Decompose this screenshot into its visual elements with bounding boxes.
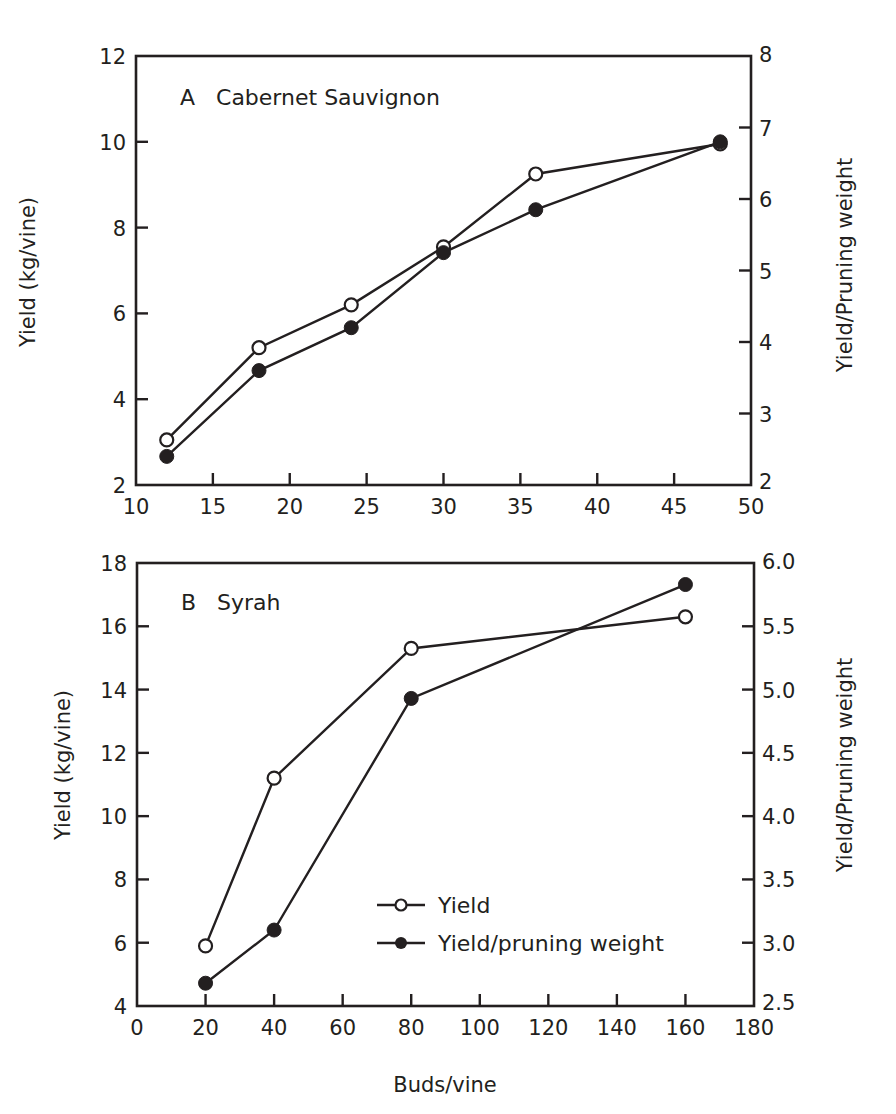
filled-circle-marker-icon bbox=[404, 691, 418, 705]
x-tick-label: 120 bbox=[528, 1016, 568, 1040]
panel-b-ticks: 02040608010012014016018046810121416182.5… bbox=[100, 550, 795, 1040]
x-tick-label: 60 bbox=[329, 1016, 356, 1040]
x-tick-label: 40 bbox=[584, 495, 611, 519]
panel-a-series bbox=[160, 135, 728, 464]
panel-a-cabernet-sauvignon: 101520253035404550246810122345678 A Cabe… bbox=[16, 43, 857, 519]
y-tick-label: 18 bbox=[100, 552, 127, 576]
filled-circle-marker-icon bbox=[160, 449, 174, 463]
y2-tick-label: 4.5 bbox=[762, 742, 795, 766]
open-circle-marker-icon bbox=[405, 642, 418, 655]
panel-b-series bbox=[199, 578, 693, 991]
filled-circle-marker-icon bbox=[678, 578, 692, 592]
x-tick-label: 10 bbox=[123, 495, 150, 519]
open-circle-marker-icon bbox=[345, 298, 358, 311]
panel-a-title: A Cabernet Sauvignon bbox=[180, 85, 440, 110]
y-tick-label: 10 bbox=[99, 131, 126, 155]
y-tick-label: 2 bbox=[113, 474, 126, 498]
filled-circle-marker-icon bbox=[395, 937, 407, 949]
y2-tick-label: 3 bbox=[759, 403, 772, 427]
y2-tick-label: 6 bbox=[759, 188, 772, 212]
y2-tick-label: 4.0 bbox=[762, 805, 795, 829]
x-tick-label: 20 bbox=[276, 495, 303, 519]
x-tick-label: 50 bbox=[738, 495, 765, 519]
figure: 101520253035404550246810122345678 A Cabe… bbox=[0, 0, 896, 1114]
y2-tick-label: 5.0 bbox=[762, 679, 795, 703]
y2-tick-label: 2 bbox=[759, 470, 772, 494]
filled-circle-marker-icon bbox=[344, 321, 358, 335]
open-circle-marker-icon bbox=[679, 610, 692, 623]
panel-b-y2-axis-title: Yield/Pruning weight bbox=[833, 658, 857, 874]
panel-a-plot-frame bbox=[136, 56, 751, 485]
x-tick-label: 25 bbox=[353, 495, 380, 519]
open-circle-marker-icon bbox=[199, 939, 212, 952]
open-circle-marker-icon bbox=[253, 341, 266, 354]
x-tick-label: 20 bbox=[192, 1016, 219, 1040]
y-tick-label: 8 bbox=[114, 868, 127, 892]
y2-tick-label: 8 bbox=[759, 43, 772, 67]
series-line-yield-pruning-weight bbox=[167, 142, 721, 457]
legend-item-yield: Yield bbox=[377, 893, 490, 918]
y-tick-label: 16 bbox=[100, 615, 127, 639]
y2-tick-label: 5 bbox=[759, 260, 772, 284]
y2-tick-label: 4 bbox=[759, 331, 772, 355]
filled-circle-marker-icon bbox=[267, 923, 281, 937]
x-axis-title: Buds/vine bbox=[393, 1073, 497, 1097]
y-tick-label: 6 bbox=[113, 302, 126, 326]
legend-label-yield-pruning-weight: Yield/pruning weight bbox=[437, 931, 664, 956]
open-circle-marker-icon bbox=[529, 167, 542, 180]
y2-tick-label: 3.0 bbox=[762, 932, 795, 956]
y-tick-label: 4 bbox=[113, 388, 126, 412]
filled-circle-marker-icon bbox=[199, 976, 213, 990]
open-circle-marker-icon bbox=[396, 900, 407, 911]
y-tick-label: 12 bbox=[100, 742, 127, 766]
y2-tick-label: 5.5 bbox=[762, 615, 795, 639]
y2-tick-label: 6.0 bbox=[762, 550, 795, 574]
x-tick-label: 45 bbox=[661, 495, 688, 519]
series-line-yield bbox=[167, 144, 721, 440]
open-circle-marker-icon bbox=[268, 772, 281, 785]
filled-circle-marker-icon bbox=[529, 203, 543, 217]
x-tick-label: 30 bbox=[430, 495, 457, 519]
y-tick-label: 12 bbox=[99, 45, 126, 69]
x-tick-label: 35 bbox=[507, 495, 534, 519]
y-tick-label: 14 bbox=[100, 679, 127, 703]
panel-b-y-axis-title: Yield (kg/vine) bbox=[51, 690, 75, 841]
x-tick-label: 160 bbox=[665, 1016, 705, 1040]
x-tick-label: 80 bbox=[398, 1016, 425, 1040]
panel-b-syrah: 02040608010012014016018046810121416182.5… bbox=[51, 550, 857, 1097]
y2-tick-label: 2.5 bbox=[762, 991, 795, 1015]
y2-tick-label: 7 bbox=[759, 117, 772, 141]
panel-a-y-axis-title: Yield (kg/vine) bbox=[16, 197, 40, 348]
y2-tick-label: 3.5 bbox=[762, 868, 795, 892]
y-tick-label: 10 bbox=[100, 805, 127, 829]
y-tick-label: 6 bbox=[114, 932, 127, 956]
legend-item-yield-pruning-weight: Yield/pruning weight bbox=[377, 931, 664, 956]
filled-circle-marker-icon bbox=[252, 364, 266, 378]
y-tick-label: 8 bbox=[113, 217, 126, 241]
x-tick-label: 0 bbox=[130, 1016, 143, 1040]
filled-circle-marker-icon bbox=[437, 246, 451, 260]
y-tick-label: 4 bbox=[114, 995, 127, 1019]
legend-label-yield: Yield bbox=[437, 893, 490, 918]
x-tick-label: 180 bbox=[734, 1016, 774, 1040]
panel-b-title: B Syrah bbox=[181, 590, 281, 615]
legend: Yield Yield/pruning weight bbox=[377, 893, 664, 956]
x-tick-label: 40 bbox=[261, 1016, 288, 1040]
panel-a-ticks: 101520253035404550246810122345678 bbox=[99, 43, 772, 519]
filled-circle-marker-icon bbox=[713, 135, 727, 149]
x-tick-label: 100 bbox=[460, 1016, 500, 1040]
panel-a-y2-axis-title: Yield/Pruning weight bbox=[833, 158, 857, 374]
chart-canvas: 101520253035404550246810122345678 A Cabe… bbox=[0, 0, 896, 1114]
x-tick-label: 140 bbox=[597, 1016, 637, 1040]
open-circle-marker-icon bbox=[160, 433, 173, 446]
x-tick-label: 15 bbox=[200, 495, 227, 519]
